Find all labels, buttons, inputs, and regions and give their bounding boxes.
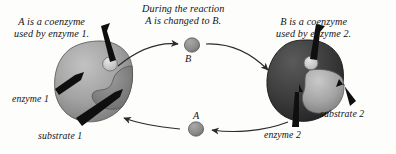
molecule-a (188, 122, 203, 136)
label-enzyme-1: enzyme 1 (12, 93, 49, 105)
caption-b-coenzyme-line1: B is a coenzyme (276, 16, 351, 28)
caption-during-reaction-line1: During the reaction (142, 3, 224, 15)
arrow-B-to-enzyme2 (206, 44, 268, 70)
label-substrate-1: substrate 1 (38, 130, 82, 142)
label-molecule-a: A (193, 110, 199, 121)
caption-a-coenzyme: A is a coenzyme used by enzyme 1. (14, 16, 89, 40)
molecule-b (184, 38, 199, 52)
caption-b-coenzyme-line2: used by enzyme 2. (276, 28, 351, 40)
arrow-A-to-enzyme1 (124, 118, 180, 129)
label-substrate-2: substrate 2 (320, 108, 364, 120)
caption-during-reaction: During the reaction A is changed to B. (142, 3, 224, 27)
label-enzyme-2: enzyme 2 (264, 129, 301, 141)
label-molecule-b: B (185, 53, 191, 64)
enzyme-cycle-diagram: A is a coenzyme used by enzyme 1. During… (0, 0, 396, 154)
caption-a-coenzyme-line2: used by enzyme 1. (14, 28, 89, 40)
caption-a-coenzyme-line1: A is a coenzyme (14, 16, 89, 28)
enzyme-2-substrate (302, 69, 344, 113)
caption-b-coenzyme: B is a coenzyme used by enzyme 2. (276, 16, 351, 40)
caption-during-reaction-line2: A is changed to B. (142, 15, 224, 27)
